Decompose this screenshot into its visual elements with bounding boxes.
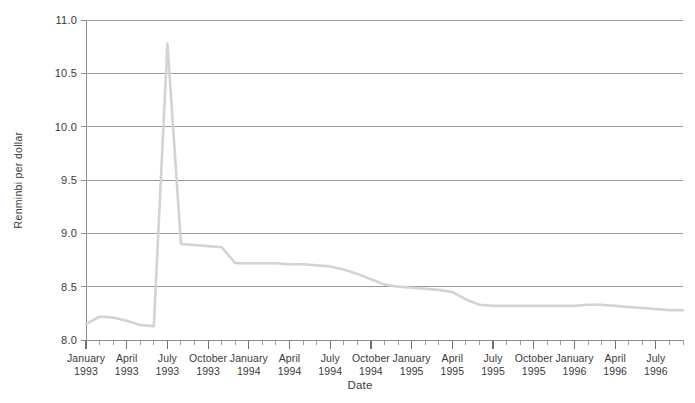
x-tick-label-month: July (321, 352, 341, 364)
y-tick-label: 8.5 (61, 281, 77, 293)
series-line (86, 43, 683, 326)
x-axis-tick-labels: January1993April1993July1993October1993J… (67, 352, 668, 377)
x-tick-label-year: 1996 (603, 365, 627, 377)
x-tick-label-year: 1996 (563, 365, 587, 377)
x-tick-label-year: 1995 (440, 365, 464, 377)
x-tick-label-month: April (442, 352, 464, 364)
data-series (86, 43, 683, 326)
x-tick-label-year: 1993 (115, 365, 139, 377)
x-tick-label-month: July (158, 352, 178, 364)
x-tick-label-year: 1993 (74, 365, 98, 377)
y-axis-tick-labels: 8.08.59.09.510.010.511.0 (55, 14, 77, 346)
y-tick-label: 9.0 (61, 227, 77, 239)
x-tick-label-month: April (279, 352, 301, 364)
x-tick-label-year: 1996 (644, 365, 668, 377)
x-tick-label-month: October (515, 352, 553, 364)
y-tick-label: 10.0 (55, 121, 77, 133)
chart-container: 8.08.59.09.510.010.511.0 January1993Apri… (0, 0, 695, 403)
line-chart: 8.08.59.09.510.010.511.0 January1993Apri… (0, 0, 695, 403)
x-tick-label-year: 1995 (522, 365, 546, 377)
x-tick-label-year: 1994 (359, 365, 383, 377)
x-tick-label-month: April (604, 352, 626, 364)
y-tick-label: 10.5 (55, 67, 77, 79)
x-tick-label-month: October (189, 352, 227, 364)
x-tick-label-year: 1994 (278, 365, 302, 377)
x-tick-label-year: 1994 (318, 365, 342, 377)
x-tick-label-year: 1993 (196, 365, 220, 377)
x-axis-ticks (86, 340, 683, 349)
x-tick-label-month: July (484, 352, 504, 364)
x-tick-label-year: 1995 (481, 365, 505, 377)
x-tick-label-month: January (393, 352, 432, 364)
x-tick-label-month: January (230, 352, 269, 364)
x-tick-label-month: July (646, 352, 666, 364)
y-axis-ticks (81, 20, 86, 340)
x-tick-label-month: April (116, 352, 138, 364)
x-axis-title: Date (347, 379, 372, 391)
x-tick-label-year: 1994 (237, 365, 261, 377)
x-tick-label-month: January (555, 352, 594, 364)
y-tick-label: 8.0 (61, 334, 77, 346)
x-tick-label-month: January (67, 352, 106, 364)
x-tick-label-month: October (352, 352, 390, 364)
y-axis-title: Renminbi per dollar (12, 131, 24, 228)
x-tick-label-year: 1993 (156, 365, 180, 377)
y-tick-label: 11.0 (56, 14, 77, 26)
y-tick-label: 9.5 (61, 174, 77, 186)
x-tick-label-year: 1995 (400, 365, 424, 377)
